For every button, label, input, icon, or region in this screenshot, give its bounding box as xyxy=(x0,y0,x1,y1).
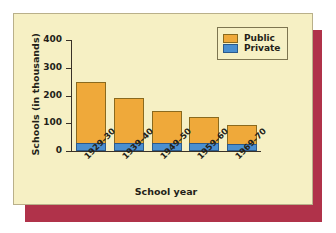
chart-figure: Schools (in thousands) School year 01002… xyxy=(0,0,336,233)
y-tick-mark xyxy=(66,123,71,124)
y-tick-mark xyxy=(66,151,71,152)
chart-legend: Public Private xyxy=(217,27,288,60)
y-tick-label: 400 xyxy=(22,35,62,44)
y-tick-mark xyxy=(66,40,71,41)
legend-item-private: Private xyxy=(223,44,280,53)
legend-swatch-private-icon xyxy=(223,44,238,53)
legend-label-private: Private xyxy=(244,44,280,53)
y-tick-label: 0 xyxy=(22,146,62,155)
chart-card: Schools (in thousands) School year 01002… xyxy=(13,13,313,205)
y-tick-mark xyxy=(66,96,71,97)
y-tick-label: 200 xyxy=(22,91,62,100)
x-axis-title: School year xyxy=(71,186,261,197)
legend-swatch-public-icon xyxy=(223,34,238,43)
y-tick-mark xyxy=(66,68,71,69)
legend-item-public: Public xyxy=(223,34,280,43)
y-tick-label: 300 xyxy=(22,63,62,72)
y-tick-label: 100 xyxy=(22,118,62,127)
legend-label-public: Public xyxy=(244,34,275,43)
